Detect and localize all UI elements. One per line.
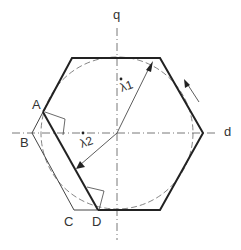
point-c-label: C — [64, 215, 73, 228]
lambda1-vector — [117, 66, 150, 133]
point-d-label: D — [92, 215, 101, 228]
point-b-label: B — [20, 136, 29, 149]
shifted-hexagon — [32, 112, 98, 210]
lambda2-dot — [82, 132, 85, 135]
hexagon-diagram — [0, 0, 241, 250]
truncated-edge-ad — [43, 112, 98, 210]
lambda1-arrowhead — [146, 61, 153, 72]
q-axis-label: q — [113, 8, 120, 21]
point-a-label: A — [32, 98, 41, 111]
d-axis-label: d — [224, 125, 231, 138]
